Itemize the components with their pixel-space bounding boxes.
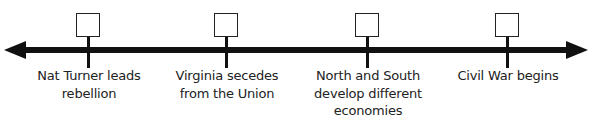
event-label: Virginia secedes from the Union (147, 67, 307, 102)
event-tick (87, 37, 90, 68)
timeline-event-different-economies: North and South develop different econom… (288, 0, 448, 133)
event-tick (366, 37, 369, 68)
answer-box[interactable] (76, 13, 100, 37)
event-label: North and South develop different econom… (288, 67, 448, 120)
event-label: Civil War begins (428, 67, 588, 85)
event-label: Nat Turner leads rebellion (9, 67, 169, 102)
timeline: Nat Turner leads rebellion Virginia sece… (0, 0, 592, 133)
answer-box[interactable] (495, 13, 519, 37)
timeline-event-virginia-secedes: Virginia secedes from the Union (147, 0, 307, 133)
answer-box[interactable] (355, 13, 379, 37)
answer-box[interactable] (214, 13, 238, 37)
timeline-event-nat-turner: Nat Turner leads rebellion (9, 0, 169, 133)
timeline-event-civil-war: Civil War begins (428, 0, 588, 133)
event-tick (225, 37, 228, 68)
event-tick (506, 37, 509, 68)
